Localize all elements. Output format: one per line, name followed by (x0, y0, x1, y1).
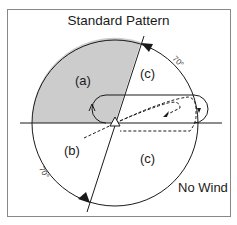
wind-condition-label: No Wind (178, 180, 228, 195)
diagram-title: Standard Pattern (0, 13, 237, 28)
region-c-upper-label: (c) (140, 66, 155, 81)
region-a-label: (a) (75, 73, 91, 88)
region-c-lower-label: (c) (140, 151, 155, 166)
region-b-label: (b) (64, 143, 80, 158)
